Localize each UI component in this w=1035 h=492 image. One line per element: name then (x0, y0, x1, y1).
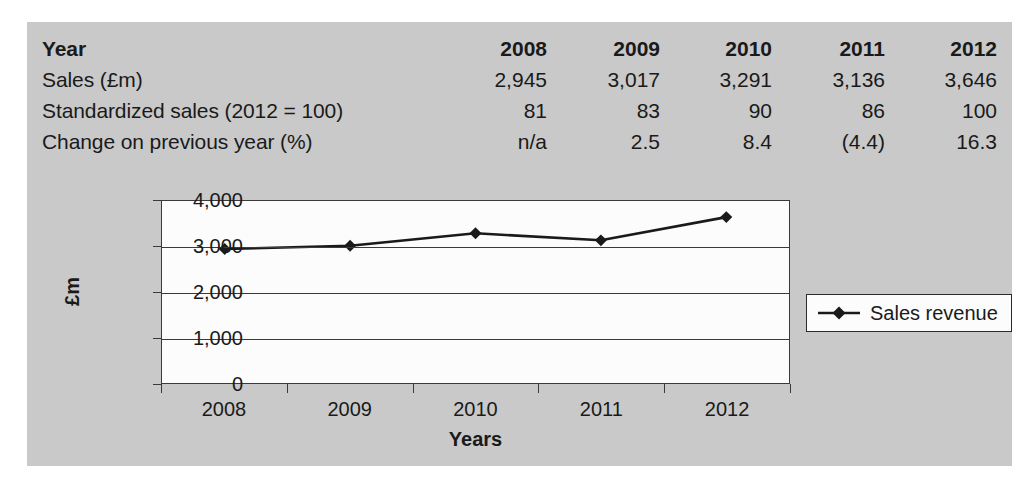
table-cell: 16.3 (901, 126, 997, 157)
table-header-row: Year20082009201020112012 (42, 33, 997, 64)
x-axis-tick-label: 2009 (287, 398, 413, 420)
x-axis-tick-label: 2012 (664, 398, 790, 420)
table-cell: 2.5 (564, 126, 660, 157)
table-cell: (4.4) (789, 126, 885, 157)
table-header-cell: 2009 (564, 33, 660, 64)
table-row-label: Standardized sales (2012 = 100) (42, 95, 343, 126)
line-chart: £m Years Sales revenue 01,0002,0003,0004… (27, 172, 1012, 466)
y-axis-tick-mark (153, 292, 162, 293)
table-cell: 3,646 (901, 64, 997, 95)
legend-marker-icon (817, 305, 861, 321)
table-header-cell: 2008 (451, 33, 547, 64)
x-axis-label: Years (161, 428, 790, 451)
data-point-marker (595, 234, 607, 246)
table-cell: 90 (676, 95, 772, 126)
table-cell: 100 (901, 95, 997, 126)
table-cell: 83 (564, 95, 660, 126)
table-row-label: Sales (£m) (42, 64, 143, 95)
x-axis-tick-label: 2011 (538, 398, 664, 420)
table-row: Sales (£m)2,9453,0173,2913,1363,646 (42, 64, 997, 95)
y-axis-tick-mark (153, 338, 162, 339)
gridline (162, 293, 789, 294)
data-table: Year20082009201020112012Sales (£m)2,9453… (42, 33, 997, 157)
y-axis-label: £m (61, 277, 84, 306)
gridline (162, 339, 789, 340)
x-axis-tick-mark (664, 384, 665, 393)
table-row: Change on previous year (%)n/a2.58.4(4.4… (42, 126, 997, 157)
table-header-cell: 2010 (676, 33, 772, 64)
table-cell: 3,291 (676, 64, 772, 95)
table-row: Standardized sales (2012 = 100)818390861… (42, 95, 997, 126)
x-axis-tick-mark (161, 384, 162, 393)
x-axis-tick-label: 2010 (413, 398, 539, 420)
y-axis-tick-label: 0 (123, 374, 243, 394)
chart-legend: Sales revenue (806, 294, 1012, 332)
y-axis-tick-label: 1,000 (123, 328, 243, 348)
data-point-marker (470, 227, 482, 239)
table-cell: 81 (451, 95, 547, 126)
x-axis-tick-mark (790, 384, 791, 393)
table-cell: 8.4 (676, 126, 772, 157)
table-row-label: Year (42, 33, 86, 64)
y-axis-tick-label: 2,000 (123, 282, 243, 302)
x-axis-tick-mark (287, 384, 288, 393)
data-point-marker (720, 211, 732, 223)
legend-label: Sales revenue (870, 303, 998, 323)
y-axis-tick-label: 3,000 (123, 236, 243, 256)
table-row-label: Change on previous year (%) (42, 126, 312, 157)
table-cell: 2,945 (451, 64, 547, 95)
table-cell: 86 (789, 95, 885, 126)
y-axis-tick-mark (153, 200, 162, 201)
table-header-cell: 2011 (789, 33, 885, 64)
table-header-cell: 2012 (901, 33, 997, 64)
x-axis-tick-label: 2008 (161, 398, 287, 420)
table-cell: 3,017 (564, 64, 660, 95)
x-axis-tick-mark (538, 384, 539, 393)
plot-area (161, 200, 790, 384)
series-sales-revenue (162, 201, 789, 383)
table-cell: 3,136 (789, 64, 885, 95)
y-axis-tick-mark (153, 246, 162, 247)
figure-panel: Year20082009201020112012Sales (£m)2,9453… (27, 22, 1012, 466)
y-axis-tick-label: 4,000 (123, 190, 243, 210)
data-point-marker (344, 240, 356, 252)
gridline (162, 247, 789, 248)
x-axis-tick-mark (413, 384, 414, 393)
table-cell: n/a (451, 126, 547, 157)
